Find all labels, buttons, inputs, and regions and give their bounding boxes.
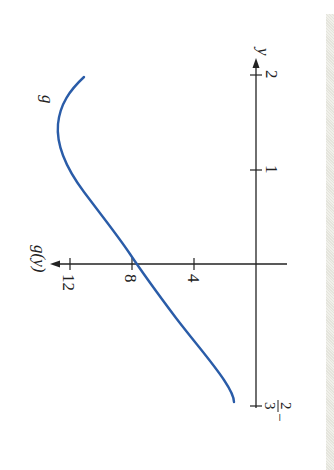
- y-axis: [250, 58, 262, 408]
- tick-label-12: 12: [59, 274, 78, 291]
- tick-label-neg-den: 2: [278, 402, 294, 410]
- tick-label-1: 1: [262, 165, 281, 174]
- g-axis: [50, 258, 287, 270]
- curve-label-g: g: [38, 95, 57, 104]
- tick-label-8: 8: [121, 274, 140, 283]
- y-axis-arrow-icon: [253, 58, 260, 68]
- curve-g: [58, 77, 234, 402]
- tick-label-2: 2: [262, 70, 281, 79]
- tick-label-4: 4: [184, 274, 203, 283]
- y-axis-label: g(y): [30, 245, 49, 273]
- tick-label-neg-sign: −: [272, 413, 288, 421]
- chart: y 2 1 3 2 − 12 8 4 g(y) g: [0, 0, 334, 470]
- tick-label-neg-num: 3: [262, 402, 278, 410]
- g-axis-arrow-icon: [50, 261, 60, 268]
- x-axis-label: y: [254, 46, 273, 56]
